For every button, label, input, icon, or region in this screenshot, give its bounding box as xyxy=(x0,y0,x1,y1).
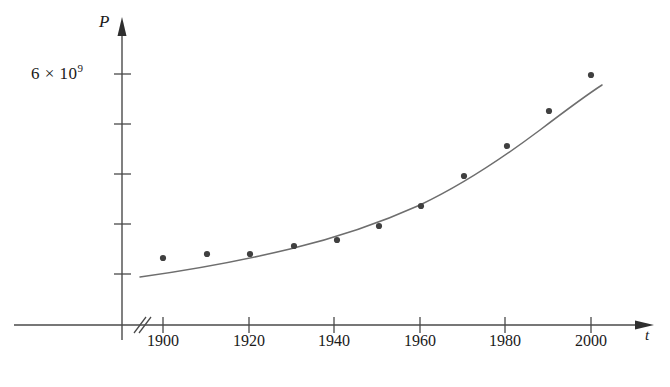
data-point xyxy=(418,203,424,209)
y-axis-tick-label: 6 × 109 xyxy=(31,62,83,84)
population-growth-chart: P t 6 × 109 1900 1920 1940 1960 1980 200… xyxy=(0,0,670,387)
data-point xyxy=(334,237,340,243)
data-point xyxy=(160,255,166,261)
y-axis-tick-label-exponent: 9 xyxy=(78,62,84,74)
y-axis xyxy=(118,17,127,340)
x-axis-label: t xyxy=(645,327,649,344)
data-point xyxy=(247,251,253,257)
x-axis-tick-label-1900: 1900 xyxy=(133,332,193,350)
data-points xyxy=(160,72,594,261)
x-axis-tick-label-1960: 1960 xyxy=(390,332,450,350)
data-point xyxy=(504,143,510,149)
chart-canvas xyxy=(0,0,670,387)
data-point xyxy=(461,173,467,179)
x-axis-tick-label-1980: 1980 xyxy=(475,332,535,350)
x-axis-tick-label-2000: 2000 xyxy=(561,332,621,350)
data-point xyxy=(291,243,297,249)
data-point xyxy=(376,223,382,229)
x-axis-tick-label-1940: 1940 xyxy=(304,332,364,350)
x-axis-tick-label-1920: 1920 xyxy=(219,332,279,350)
data-point xyxy=(204,251,210,257)
data-point xyxy=(546,108,552,114)
y-axis-tick-label-mantissa: 6 × 10 xyxy=(31,64,78,83)
data-point xyxy=(588,72,594,78)
y-axis-label: P xyxy=(99,12,109,32)
fitted-curve xyxy=(140,85,602,277)
